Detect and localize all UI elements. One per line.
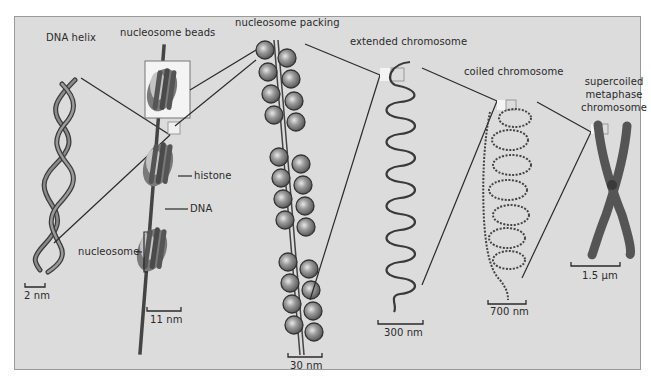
dna-helix-graphic: [35, 80, 75, 272]
scale-bar-700nm: [488, 300, 526, 304]
scale-label-11nm: 11 nm: [150, 314, 182, 325]
label-line-3: chromosome: [580, 101, 648, 114]
nucleosome-packing-graphic: [256, 40, 323, 355]
scale-bar-30nm: [288, 353, 322, 357]
callout-lines: [136, 176, 192, 272]
label-supercoiled-metaphase-chromosome: supercoiled metaphase chromosome: [580, 75, 648, 114]
label-nucleosome-beads: nucleosome beads: [120, 27, 215, 38]
scale-label-300nm: 300 nm: [384, 327, 423, 338]
scale-bar-2nm: [25, 283, 45, 287]
label-coiled-chromosome: coiled chromosome: [464, 66, 563, 77]
coiled-chromosome-graphic: [483, 100, 531, 300]
scale-label-1-5um: 1.5 µm: [582, 270, 618, 281]
connector-lines-3: [305, 44, 380, 300]
scale-label-2nm: 2 nm: [24, 290, 50, 301]
connector-lines-5: [522, 102, 591, 278]
scale-label-30nm: 30 nm: [290, 360, 322, 371]
dna-packaging-illustration: [0, 0, 651, 381]
label-dna-helix: DNA helix: [46, 32, 96, 43]
extended-chromosome-graphic: [380, 62, 415, 312]
scale-bar-300nm: [378, 320, 423, 324]
scale-label-700nm: 700 nm: [490, 306, 529, 317]
callout-nucleosome: nucleosome: [78, 246, 139, 257]
callout-dna: DNA: [190, 203, 212, 214]
callout-histone: histone: [194, 170, 232, 181]
metaphase-chromosome-graphic: [591, 124, 631, 255]
label-line-1: supercoiled: [580, 75, 648, 88]
label-extended-chromosome: extended chromosome: [350, 36, 467, 47]
label-line-2: metaphase: [580, 88, 648, 101]
label-nucleosome-packing: nucleosome packing: [235, 17, 340, 28]
connector-lines-4: [422, 68, 497, 285]
scale-bar-1-5um: [571, 262, 620, 266]
scale-bar-11nm: [147, 307, 181, 311]
